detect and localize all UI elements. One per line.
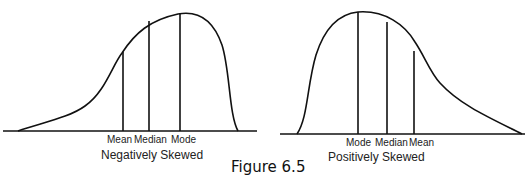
right-marker-mean: Mean — [409, 137, 434, 148]
negative-skew-curve-group — [3, 13, 257, 131]
right-marker-median: Median — [375, 137, 408, 148]
left-marker-median: Median — [134, 134, 167, 145]
positive-skew-curve-group — [280, 12, 525, 134]
left-marker-mean: Mean — [107, 134, 132, 145]
right-curve — [297, 12, 522, 134]
right-panel-title: Positively Skewed — [328, 150, 425, 164]
right-marker-mode: Mode — [346, 137, 371, 148]
left-curve — [18, 13, 238, 131]
figure-caption: Figure 6.5 — [231, 158, 305, 176]
left-marker-mode: Mode — [171, 134, 196, 145]
left-panel-title: Negatively Skewed — [101, 148, 203, 162]
skew-diagram — [0, 0, 531, 179]
